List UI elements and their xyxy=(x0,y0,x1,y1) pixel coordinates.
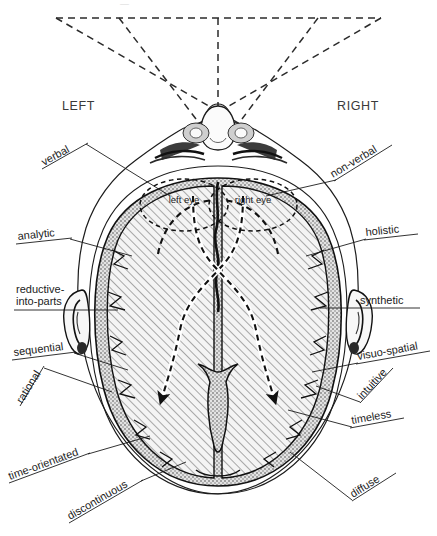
annotation-rational-label: rational xyxy=(14,368,43,405)
figure-canvas: — xyxy=(0,0,437,536)
brain-hemispheres-figure: — xyxy=(0,0,437,536)
annotation-analytic-label: analytic xyxy=(17,226,56,242)
left-eye-label: left eye xyxy=(169,194,200,205)
annotation-synthetic-label: synthetic xyxy=(360,294,404,306)
annotation-intuitive-label: intuitive xyxy=(355,366,389,401)
side-label-left: LEFT xyxy=(62,99,95,113)
cropped-caption-ghost: — xyxy=(120,0,131,9)
visual-field-ray-right-inner xyxy=(242,18,318,119)
side-label-right: RIGHT xyxy=(337,99,379,113)
annotation-timeless-label: timeless xyxy=(350,407,392,426)
right-eye-label: right eye xyxy=(235,194,271,205)
annotation-time-orientated-label: time-orientated xyxy=(7,446,80,482)
annotation-reductive-label-line1: reductive- xyxy=(16,283,65,295)
brain xyxy=(95,178,342,486)
svg-text:—: — xyxy=(120,0,131,9)
annotation-holistic-label: holistic xyxy=(365,222,400,238)
annotation-discontinuous-label: discontinuous xyxy=(65,477,130,521)
eye-right-anatomical xyxy=(228,123,287,163)
annotation-diffuse-label: diffuse xyxy=(348,472,382,499)
annotation-non-verbal-label: non-verbal xyxy=(328,143,379,180)
annotation-reductive-label-line2: into-parts xyxy=(16,295,62,307)
visual-field-ray-left-inner xyxy=(119,18,196,119)
annotation-sequential-label: sequential xyxy=(13,340,64,358)
ear-left xyxy=(64,290,90,354)
annotation-diffuse: diffuse xyxy=(290,452,396,501)
annotation-time-orientated: time-orientated xyxy=(7,436,150,483)
